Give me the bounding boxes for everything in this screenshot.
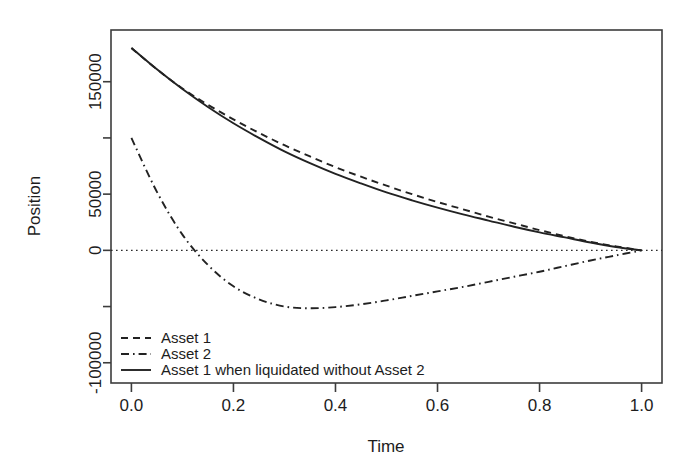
y-tick-label: 50000 [86, 170, 105, 217]
x-tick-label: 0.2 [222, 396, 246, 415]
y-tick-label: -100000 [86, 332, 105, 394]
x-axis-tick-labels: 0.00.20.40.60.81.0 [120, 396, 654, 415]
data-series-group [131, 48, 641, 308]
x-tick-label: 0.0 [120, 396, 144, 415]
x-tick-label: 0.4 [324, 396, 348, 415]
chart-canvas: 150000500000-100000 0.00.20.40.60.81.0 P… [0, 0, 696, 474]
y-tick-label: 0 [86, 246, 105, 255]
series-line-dashed [131, 48, 641, 250]
legend-label: Asset 2 [161, 345, 211, 362]
x-axis-ticks [131, 383, 641, 392]
series-line-dashdot [131, 138, 641, 308]
x-tick-label: 0.8 [528, 396, 552, 415]
legend-label: Asset 1 when liquidated without Asset 2 [161, 361, 425, 378]
y-axis-ticks [103, 82, 111, 363]
legend-label: Asset 1 [161, 329, 211, 346]
x-tick-label: 1.0 [630, 396, 654, 415]
x-tick-label: 0.6 [426, 396, 450, 415]
chart-figure: 150000500000-100000 0.00.20.40.60.81.0 P… [0, 0, 696, 474]
series-line-solid [131, 48, 641, 250]
x-axis-title: Time [367, 437, 404, 456]
y-axis-title: Position [25, 176, 44, 236]
chart-legend: Asset 1Asset 2Asset 1 when liquidated wi… [121, 329, 425, 378]
y-axis-tick-labels: 150000500000-100000 [86, 53, 105, 394]
y-tick-label: 150000 [86, 53, 105, 110]
